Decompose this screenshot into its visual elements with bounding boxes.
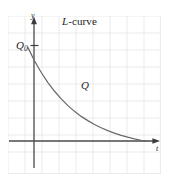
q0-label: Q0 — [16, 40, 28, 51]
curve-label: Q — [81, 80, 89, 91]
x-axis-label: t — [156, 145, 158, 153]
y-axis-label: y — [31, 12, 35, 20]
q0-base: Q — [16, 39, 24, 51]
q0-subscript: 0 — [24, 44, 28, 53]
l-curve-figure: L-curve y t Q0 Q — [0, 0, 169, 187]
plot-panel — [8, 16, 161, 174]
title-rest: -curve — [68, 15, 97, 27]
figure-title: L-curve — [62, 16, 97, 27]
q-curve — [8, 16, 161, 174]
